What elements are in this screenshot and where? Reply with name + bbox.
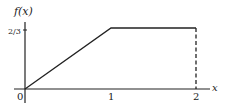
x-tick-label-2: 2 [193, 91, 199, 102]
y-axis-label: f(x) [13, 5, 33, 18]
origin-label: 0 [17, 91, 23, 102]
function-line [25, 28, 196, 89]
function-plot: f(x) 2/3 0 1 2 x [0, 0, 230, 105]
x-tick-label-1: 1 [108, 91, 114, 102]
y-tick-label: 2/3 [8, 27, 21, 36]
x-axis-label: x [212, 82, 218, 93]
